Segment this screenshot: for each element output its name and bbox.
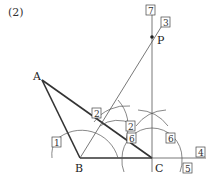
step-label-6a: 6 xyxy=(127,133,136,144)
step-label-3: 3 xyxy=(161,17,170,28)
step-label-5: 5 xyxy=(183,163,192,174)
arc-1 xyxy=(56,130,118,158)
svg-text:2: 2 xyxy=(128,122,134,132)
step-label-7: 7 xyxy=(146,5,155,16)
construction-diagram: (2) A B C P 7 3 2 2 6 xyxy=(0,0,210,181)
label-b: B xyxy=(75,162,83,175)
svg-text:3: 3 xyxy=(163,18,169,28)
step-label-2b: 2 xyxy=(126,121,135,132)
arc-5-lower-right xyxy=(180,158,182,172)
step-label-2a: 2 xyxy=(92,108,101,119)
step-label-6b: 6 xyxy=(166,133,175,144)
label-p: P xyxy=(157,34,165,47)
svg-text:1: 1 xyxy=(54,138,60,148)
problem-number: (2) xyxy=(8,6,24,19)
svg-text:2: 2 xyxy=(94,109,100,119)
bisector-line-bp xyxy=(80,24,163,158)
svg-text:5: 5 xyxy=(185,164,191,174)
step-label-4: 4 xyxy=(196,147,205,158)
point-p-dot xyxy=(150,35,154,39)
svg-text:7: 7 xyxy=(148,6,154,16)
svg-text:6: 6 xyxy=(168,134,174,144)
svg-text:4: 4 xyxy=(198,148,204,158)
svg-text:6: 6 xyxy=(129,134,135,144)
arc-5-lower-left xyxy=(122,158,124,172)
step-label-1: 1 xyxy=(52,137,61,148)
label-c: C xyxy=(155,162,163,175)
label-a: A xyxy=(32,70,42,83)
